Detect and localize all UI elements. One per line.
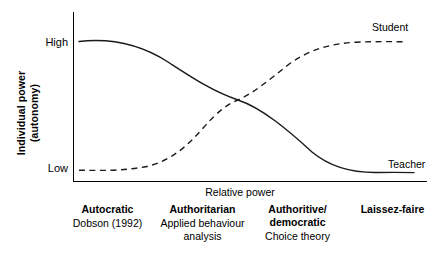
category-subtitle: Applied behaviour analysis [157, 217, 248, 243]
category-column-authoritive-democratic: Authoritive/ democratic Choice theory [250, 203, 345, 243]
category-subtitle: Choice theory [252, 230, 343, 243]
category-title: Laissez-faire [347, 203, 438, 216]
x-axis-title: Relative power [155, 186, 325, 198]
student-curve [79, 42, 404, 171]
category-title: Authoritarian [157, 203, 248, 216]
category-title: Authoritive/ democratic [252, 203, 343, 229]
category-column-authoritarian: Authoritarian Applied behaviour analysis [155, 203, 250, 243]
teacher-curve-label: Teacher [388, 158, 425, 170]
teacher-curve [79, 41, 414, 173]
category-column-laissez-faire: Laissez-faire [345, 203, 440, 217]
category-title: Autocratic [62, 203, 153, 216]
power-continuum-chart: Individual power (autonomy) High Low Rel… [0, 0, 445, 257]
category-column-autocratic: Autocratic Dobson (1992) [60, 203, 155, 230]
category-row: Autocratic Dobson (1992) Authoritarian A… [60, 203, 440, 253]
y-tick-label-low: Low [16, 162, 68, 174]
y-tick-label-high: High [16, 36, 68, 48]
category-subtitle: Dobson (1992) [62, 217, 153, 230]
student-curve-label: Student [372, 21, 408, 33]
